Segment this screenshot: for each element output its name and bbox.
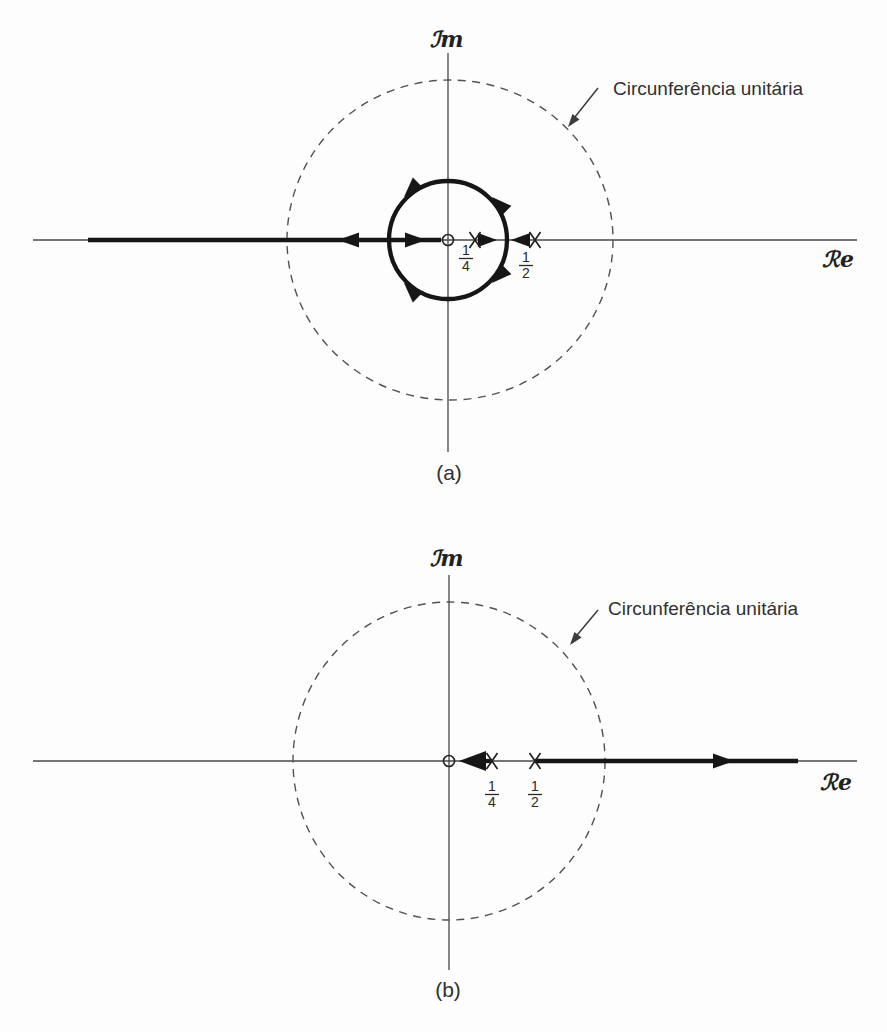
arrowhead-to-minus-infinity-icon [338, 233, 359, 248]
arrowhead-into-zero-icon [459, 751, 486, 771]
fraction-denominator: 4 [488, 794, 496, 810]
annotation-arrowhead-icon [566, 632, 581, 648]
panel-caption: (b) [435, 978, 461, 1001]
breakaway-arrowhead-left-icon [511, 233, 530, 247]
real-axis-label: ℛe [822, 246, 854, 272]
fraction-numerator: 1 [531, 778, 539, 794]
fraction-numerator: 1 [488, 778, 496, 794]
breakaway-arrowhead-right-icon [478, 233, 497, 247]
fraction-denominator: 4 [462, 258, 470, 274]
imaginary-axis-label: ℐm [430, 545, 463, 571]
pole-label-half: 1 2 [519, 249, 533, 281]
arrowhead-into-zero-icon [405, 233, 426, 248]
arrowhead-to-plus-infinity-icon [713, 754, 734, 769]
real-axis-label: ℛe [820, 769, 852, 795]
fraction-denominator: 2 [522, 265, 530, 281]
panel-caption: (a) [436, 461, 462, 484]
panel-a: 1 4 1 2 ℐm ℛe Circunferência unitária (a… [33, 26, 857, 484]
unit-circle-label: Circunferência unitária [613, 78, 804, 99]
pole-label-quarter: 1 4 [485, 778, 499, 810]
imaginary-axis-label: ℐm [430, 26, 463, 52]
figure-page: 1 4 1 2 ℐm ℛe Circunferência unitária (a… [0, 0, 887, 1032]
fraction-numerator: 1 [522, 249, 530, 265]
unit-circle-label: Circunferência unitária [608, 598, 799, 619]
fraction-numerator: 1 [462, 242, 470, 258]
fraction-denominator: 2 [531, 794, 539, 810]
panel-b: 1 4 1 2 ℐm ℛe Circunferência unitária (b… [33, 545, 857, 1001]
pole-label-half: 1 2 [528, 778, 542, 810]
